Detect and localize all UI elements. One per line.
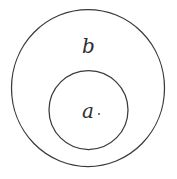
diagram-background bbox=[0, 0, 177, 179]
stray-dot-mark bbox=[98, 113, 100, 115]
inner-set-label: a bbox=[82, 101, 94, 121]
venn-diagram-svg bbox=[0, 0, 177, 179]
venn-diagram-canvas: b a bbox=[0, 0, 177, 179]
outer-set-label: b bbox=[82, 36, 95, 56]
